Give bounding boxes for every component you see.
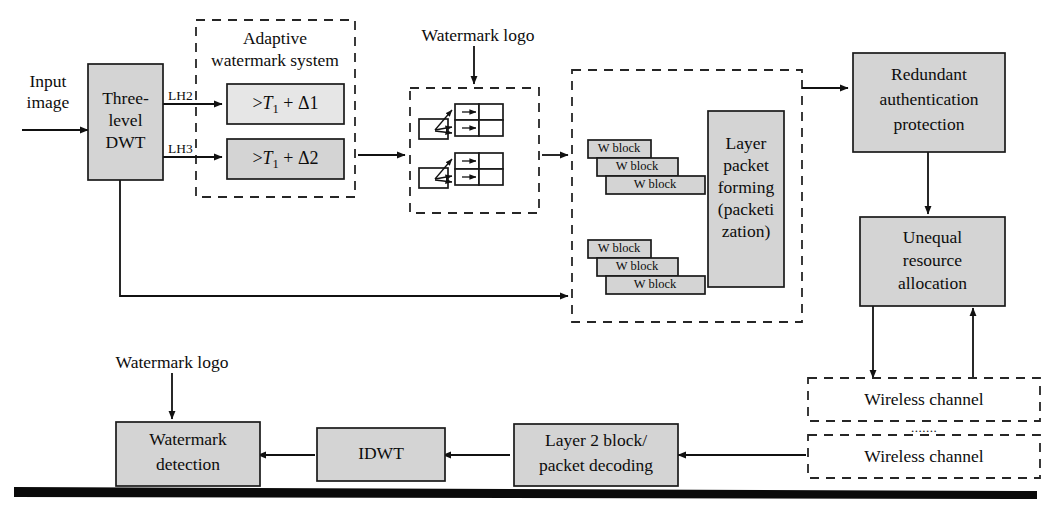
watermark-logo-glyph-upper <box>419 104 503 139</box>
node-idwt-label: IDWT <box>358 443 404 463</box>
node-threshold-1-label: >T1 + Δ1 <box>252 93 318 116</box>
wblock-upper-3-label: W block <box>634 177 677 191</box>
wblock-upper-1-label: W block <box>598 141 641 155</box>
node-detection-line1: Watermark <box>149 429 227 449</box>
watermark-logo-label-bottom: Watermark logo <box>116 352 229 372</box>
bottom-rule-bar <box>14 487 1037 499</box>
threshold1-prefix: > <box>252 93 262 113</box>
node-threshold-2-label: >T1 + Δ2 <box>252 148 318 171</box>
lh2-label: LH2 <box>168 88 193 103</box>
threshold1-plus: + <box>283 93 293 113</box>
threshold2-plus: + <box>283 148 293 168</box>
connector-dwt-to-wblocks-lower <box>120 180 568 296</box>
threshold1-delta: Δ1 <box>298 93 319 113</box>
node-dwt-line3: DWT <box>106 132 146 152</box>
node-wireless-channel-1-label: Wireless channel <box>864 389 983 409</box>
group-adaptive-title-line1: Adaptive <box>243 28 307 48</box>
wblock-stack-upper: W block W block W block <box>588 140 705 194</box>
node-alloc-line3: allocation <box>898 273 967 293</box>
input-image-label-line2: image <box>27 92 70 112</box>
node-auth-line3: protection <box>894 114 965 134</box>
node-dwt-line1: Three- <box>102 88 149 108</box>
channel-ellipsis: ....... <box>911 420 937 435</box>
wblock-upper-2-label: W block <box>616 159 659 173</box>
node-wireless-channel-2-label: Wireless channel <box>864 446 983 466</box>
input-image-label-line1: Input <box>30 71 67 91</box>
wblock-lower-2-label: W block <box>616 259 659 273</box>
node-layer2-line2: packet decoding <box>539 455 653 475</box>
node-layer-packet-line2: packet <box>723 155 769 175</box>
watermark-logo-glyph-lower <box>419 153 503 188</box>
block-diagram-figure: Adaptive watermark system Input image LH… <box>0 0 1049 508</box>
node-layer-packet-line3: forming <box>718 177 775 197</box>
diagram-canvas: Adaptive watermark system Input image LH… <box>0 0 1049 508</box>
node-auth-line2: authentication <box>879 89 978 109</box>
node-alloc-line2: resource <box>903 250 963 270</box>
node-layer-packet-line1: Layer <box>726 133 767 153</box>
node-layer-packet-line4: (packeti <box>718 199 774 219</box>
node-alloc-line1: Unequal <box>903 227 962 247</box>
node-auth-line1: Redundant <box>891 64 967 84</box>
lh3-label: LH3 <box>168 141 193 156</box>
node-layer2-line1: Layer 2 block/ <box>545 430 647 450</box>
wblock-stack-lower: W block W block W block <box>588 240 705 294</box>
node-detection-line2: detection <box>156 454 220 474</box>
wblock-lower-3-label: W block <box>634 277 677 291</box>
wblock-lower-1-label: W block <box>598 241 641 255</box>
watermark-logo-label-top: Watermark logo <box>422 25 535 45</box>
node-dwt-line2: level <box>108 110 142 130</box>
threshold2-prefix: > <box>252 148 262 168</box>
node-layer-packet-line5: zation) <box>722 221 771 241</box>
threshold2-delta: Δ2 <box>298 148 319 168</box>
group-adaptive-title-line2: watermark system <box>211 50 339 70</box>
